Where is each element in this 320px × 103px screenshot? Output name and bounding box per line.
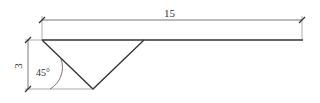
length-label: 15 (164, 7, 176, 19)
angle-label: 45° (36, 67, 50, 78)
length-dimension: 15 (39, 7, 305, 40)
angle-dimension: 45° (36, 59, 62, 89)
depth-dimension: 3 (12, 37, 93, 92)
depth-label: 3 (12, 63, 24, 69)
v-groove-outline (42, 40, 144, 89)
angle-arc (50, 59, 62, 89)
weld-groove-drawing: 15 3 45° (0, 0, 320, 103)
